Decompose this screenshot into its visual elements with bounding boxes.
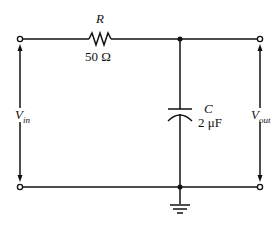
vin-label: Vin <box>15 108 30 125</box>
resistor-symbol-label: R <box>96 12 104 25</box>
arrowhead-icon <box>258 44 263 51</box>
output-terminal-top <box>257 36 262 41</box>
arrowhead-icon <box>258 175 263 182</box>
junction-node-top <box>178 37 183 42</box>
resistor-value-label: 50 Ω <box>85 50 111 63</box>
circuit-schematic <box>0 0 278 226</box>
capacitor-value-label: 2 μF <box>198 116 222 129</box>
vin-label-sub: in <box>23 115 30 125</box>
capacitor-symbol-label: C <box>204 102 213 115</box>
output-terminal-bottom <box>257 184 262 189</box>
resistor-symbol <box>89 33 111 45</box>
junction-node-bottom <box>178 185 183 190</box>
vin-label-main: V <box>15 107 23 122</box>
vout-label-main: V <box>251 107 259 122</box>
arrowhead-icon <box>18 175 23 182</box>
input-terminal-top <box>17 36 22 41</box>
arrowhead-icon <box>18 44 23 51</box>
vout-label-sub: out <box>259 115 271 125</box>
vout-label: Vout <box>251 108 270 125</box>
input-terminal-bottom <box>17 184 22 189</box>
